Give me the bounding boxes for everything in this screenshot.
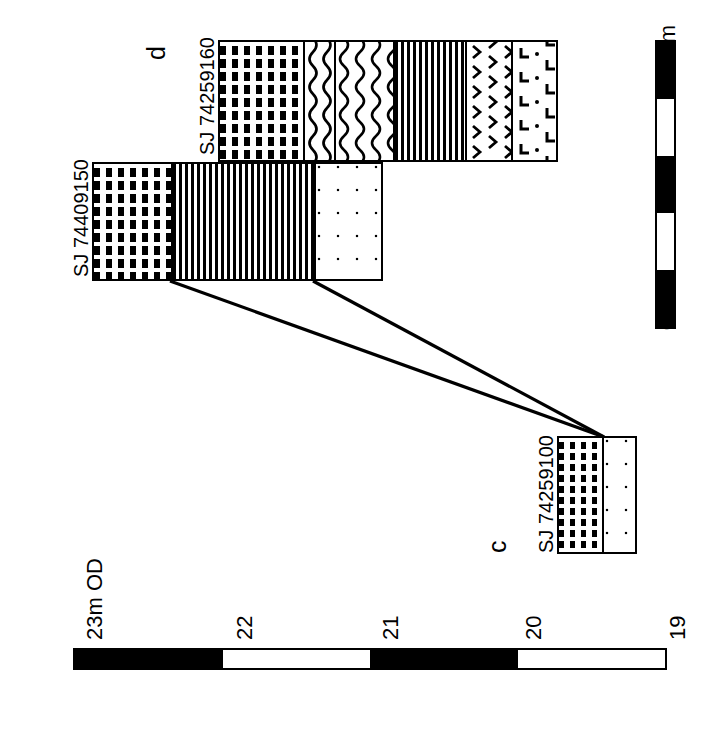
borehole-label-74259160: SJ 74259160 (196, 37, 219, 155)
scale-segment-0 (657, 42, 674, 99)
elev-segment-1 (223, 650, 371, 668)
scale-segment-2 (657, 156, 674, 213)
elevation-tick-19: 19 (665, 616, 691, 640)
band-organic-peat-b[interactable] (334, 42, 393, 160)
scale-segment-4 (657, 270, 674, 327)
borehole-log-74409150[interactable] (92, 162, 383, 281)
section-label-c: c (483, 541, 512, 554)
scale-segment-1 (657, 99, 674, 156)
band-laminated-silt[interactable] (220, 42, 303, 160)
elev-segment-2 (370, 650, 518, 668)
elevation-tick-21: 21 (378, 616, 404, 640)
distance-scale-bar (655, 40, 676, 329)
elevation-tick-23m: 23m OD (82, 558, 108, 640)
elev-segment-0 (75, 650, 223, 668)
elevation-tick-22: 22 (232, 616, 258, 640)
borehole-label-74259100: SJ 74259100 (535, 435, 558, 553)
band-organic-mud[interactable] (171, 164, 314, 279)
scale-segment-3 (657, 213, 674, 270)
borehole-log-74259160[interactable] (218, 40, 558, 162)
borehole-label-74409150: SJ 74409150 (70, 159, 93, 277)
cross-section-figure: d SJ 74259160 SJ 74409150 c SJ 74259100 … (0, 0, 713, 734)
band-laminated-silt[interactable] (94, 164, 171, 279)
band-laminated-silt[interactable] (559, 438, 602, 552)
section-label-d: d (142, 46, 171, 60)
band-organic-mud[interactable] (393, 42, 465, 160)
band-made-ground[interactable] (511, 42, 556, 160)
elevation-tick-20: 20 (521, 616, 547, 640)
band-sand[interactable] (602, 438, 635, 552)
elev-segment-3 (518, 650, 666, 668)
elevation-scale-bar (73, 648, 667, 670)
borehole-log-74259100[interactable] (557, 436, 637, 554)
band-sand[interactable] (314, 164, 381, 279)
band-gravelly-clay[interactable] (465, 42, 511, 160)
band-organic-peat-a[interactable] (303, 42, 334, 160)
